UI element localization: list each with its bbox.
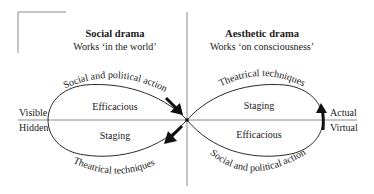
arrow-out-of-center-icon	[164, 126, 182, 144]
right-lower-region-label: Efficacious	[236, 129, 281, 141]
center-node	[185, 118, 189, 122]
left-upper-region-label: Efficacious	[92, 101, 137, 113]
diagram-graphics: Social and political action Theatrical t…	[0, 0, 374, 194]
left-lower-region-label: Staging	[100, 130, 131, 142]
axis-label-actual: Actual	[330, 107, 357, 119]
right-panel-subtitle: Works ‘on consciousness’	[210, 41, 314, 53]
left-upper-arc-label: Social and political action	[61, 69, 169, 94]
arrow-up-right-side-icon	[316, 103, 327, 130]
axis-label-visible: Visible	[19, 107, 47, 119]
axis-label-hidden: Hidden	[19, 122, 48, 134]
social-aesthetic-drama-diagram: Social and political action Theatrical t…	[0, 0, 374, 194]
right-panel-title: Aesthetic drama	[225, 28, 299, 40]
left-panel-title: Social drama	[85, 28, 144, 40]
left-panel-subtitle: Works ‘in the world’	[73, 41, 156, 53]
axis-label-virtual: Virtual	[330, 122, 358, 134]
left-lower-arc-label: Theatrical techniques	[72, 154, 156, 175]
right-lower-arc-label: Social and political action	[208, 146, 307, 173]
right-upper-region-label: Staging	[244, 100, 275, 112]
arrow-into-center-icon	[166, 98, 183, 115]
